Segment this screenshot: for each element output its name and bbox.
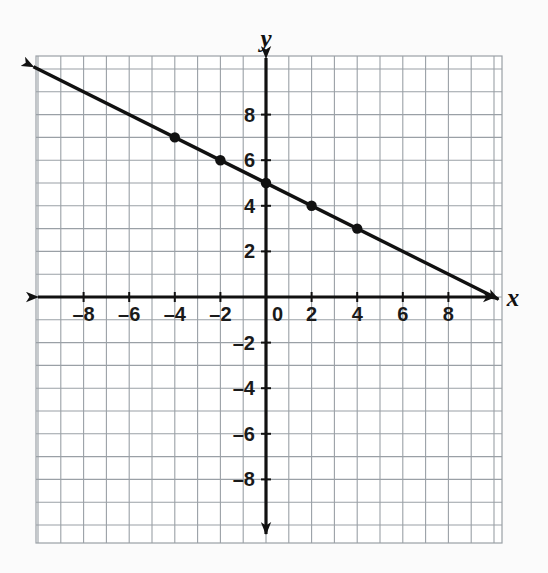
y-tick-label: 6 (244, 149, 255, 171)
y-tick-label: 8 (244, 104, 255, 126)
x-tick-label: 8 (443, 303, 454, 325)
data-point (352, 223, 362, 233)
coordinate-plane-graph: –8–6–4–22468 8642–2–4–6–8 0 x y (0, 0, 548, 573)
graph-canvas: –8–6–4–22468 8642–2–4–6–8 0 x y (0, 0, 548, 573)
x-tick-label: 6 (397, 303, 408, 325)
x-axis-label: x (506, 284, 520, 311)
y-tick-label: –4 (233, 377, 256, 399)
y-axis-label: y (257, 25, 272, 52)
y-tick-label: 2 (244, 240, 255, 262)
x-tick-label: –6 (118, 303, 140, 325)
x-tick-label: –8 (72, 303, 94, 325)
origin-label: 0 (272, 303, 283, 325)
x-tick-label: 4 (352, 303, 364, 325)
x-tick-label: –4 (164, 303, 187, 325)
y-tick-label: –8 (233, 468, 255, 490)
x-tick-label: 2 (306, 303, 317, 325)
data-point (215, 155, 225, 165)
data-point (261, 178, 271, 188)
x-tick-label: –2 (209, 303, 231, 325)
data-point (306, 201, 316, 211)
y-tick-label: –2 (233, 332, 255, 354)
y-tick-label: 4 (244, 195, 256, 217)
y-tick-label: –6 (233, 423, 255, 445)
data-point (170, 132, 180, 142)
